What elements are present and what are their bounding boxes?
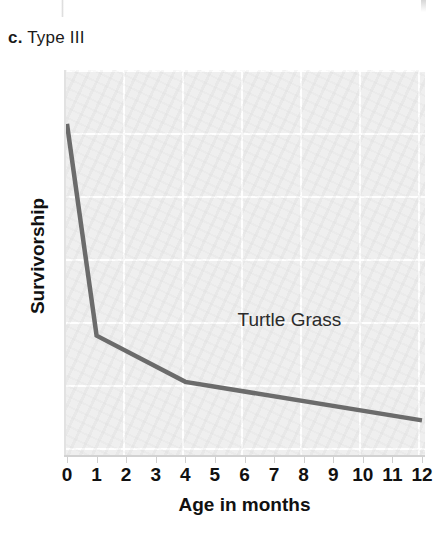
x-axis-tick xyxy=(422,457,423,463)
x-axis-tick-labels: 0123456789101112 xyxy=(64,464,425,488)
series-annotation-turtle-grass: Turtle Grass xyxy=(238,309,342,331)
x-axis-tick-label: 11 xyxy=(382,464,402,486)
figure-panel-c: c. Type III Turtle Grass 012345678910111… xyxy=(0,0,448,538)
x-axis-tick-label: 7 xyxy=(269,464,280,486)
x-axis-tick-label: 0 xyxy=(62,464,73,486)
x-axis-tick-label: 6 xyxy=(239,464,250,486)
x-axis-tick xyxy=(392,457,393,463)
y-axis-title: Survivorship xyxy=(27,156,49,356)
survivorship-curve xyxy=(64,70,425,455)
x-axis-tick-label: 10 xyxy=(352,464,373,486)
x-axis-tick-label: 3 xyxy=(150,464,161,486)
x-axis-ticks xyxy=(64,457,425,464)
x-axis-tick xyxy=(185,457,186,463)
scan-artifact-right xyxy=(421,0,426,12)
x-axis-tick-label: 4 xyxy=(180,464,191,486)
x-axis-tick-label: 1 xyxy=(91,464,102,486)
x-axis-tick-label: 5 xyxy=(210,464,221,486)
scan-artifact-left xyxy=(61,0,64,17)
plot-area: Turtle Grass xyxy=(64,70,425,455)
y-axis-line xyxy=(64,70,66,455)
x-axis-tick xyxy=(304,457,305,463)
x-axis-tick xyxy=(274,457,275,463)
x-axis-tick-label: 9 xyxy=(328,464,339,486)
x-axis-tick xyxy=(245,457,246,463)
x-axis-tick xyxy=(67,457,68,463)
x-axis-tick-label: 8 xyxy=(298,464,309,486)
series-line-turtle-grass xyxy=(67,124,422,420)
x-axis-tick xyxy=(333,457,334,463)
x-axis-tick-label: 12 xyxy=(411,464,432,486)
panel-letter: c. xyxy=(8,28,23,47)
panel-caption: c. Type III xyxy=(8,28,85,48)
panel-title: Type III xyxy=(27,28,84,47)
x-axis-tick xyxy=(156,457,157,463)
x-axis-tick xyxy=(215,457,216,463)
x-axis-tick xyxy=(97,457,98,463)
x-axis-tick-label: 2 xyxy=(121,464,132,486)
x-axis-title: Age in months xyxy=(64,494,425,516)
x-axis-tick xyxy=(126,457,127,463)
x-axis-tick xyxy=(363,457,364,463)
